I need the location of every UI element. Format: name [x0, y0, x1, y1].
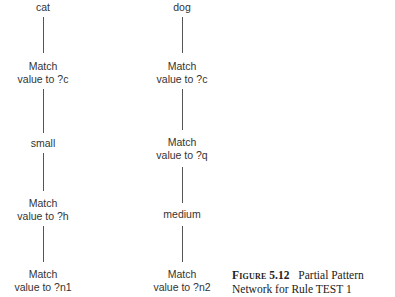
node-label-line1: Match: [0, 197, 88, 210]
node-match-c-right: Match value to ?c: [137, 60, 227, 86]
node-label: small: [0, 137, 88, 150]
node-match-n1: Match value to ?n1: [0, 268, 88, 294]
node-cat: cat: [0, 1, 88, 14]
edge-match-c-to-small: [43, 89, 44, 133]
figure-label: Figure: [232, 269, 266, 281]
node-label-line1: Match: [137, 60, 227, 73]
node-label: dog: [137, 1, 227, 14]
node-match-h: Match value to ?h: [0, 197, 88, 223]
edge-match-h-to-match-n1: [43, 226, 44, 262]
figure-number: 5.12: [269, 269, 289, 281]
node-label-line2: value to ?c: [137, 73, 227, 86]
node-label-line2: value to ?c: [0, 73, 88, 86]
edge-cat-to-match-c: [43, 17, 44, 53]
node-dog: dog: [137, 1, 227, 14]
caption-line1: Figure 5.12 Partial Pattern: [232, 268, 364, 282]
node-label-line1: Match: [137, 268, 227, 281]
figure-caption: Figure 5.12 Partial Pattern Network for …: [232, 268, 364, 296]
node-label-line2: value to ?n1: [0, 281, 88, 294]
caption-title-line1: Partial Pattern: [298, 269, 363, 281]
node-label-line2: value to ?h: [0, 210, 88, 223]
node-label-line1: Match: [137, 136, 227, 149]
node-label-line2: value to ?n2: [137, 281, 227, 294]
edge-medium-to-match-n2: [182, 226, 183, 262]
edge-small-to-match-h: [43, 153, 44, 191]
edge-match-q-to-medium: [182, 167, 183, 203]
node-match-c-left: Match value to ?c: [0, 60, 88, 86]
node-label-line2: value to ?q: [137, 149, 227, 162]
node-match-q: Match value to ?q: [137, 136, 227, 162]
node-label-line1: Match: [0, 268, 88, 281]
node-label: cat: [0, 1, 88, 14]
node-medium: medium: [137, 208, 227, 221]
edge-dog-to-match-c: [182, 17, 183, 53]
edge-match-c-to-match-q: [182, 89, 183, 130]
caption-title-line2: Network for Rule TEST 1: [232, 282, 364, 296]
node-small: small: [0, 137, 88, 150]
node-match-n2: Match value to ?n2: [137, 268, 227, 294]
node-label-line1: Match: [0, 60, 88, 73]
node-label: medium: [137, 208, 227, 221]
